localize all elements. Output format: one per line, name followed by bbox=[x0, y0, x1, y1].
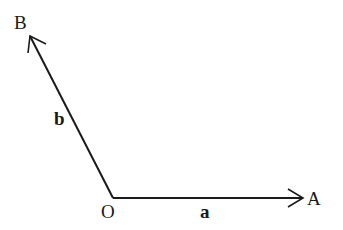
point-label-b: B bbox=[14, 12, 27, 33]
vector-b-line bbox=[30, 36, 113, 198]
vector-diagram: B O A b a bbox=[0, 0, 343, 230]
origin-label: O bbox=[101, 201, 115, 222]
vector-label-b: b bbox=[54, 108, 65, 129]
vector-label-a: a bbox=[200, 201, 210, 222]
point-label-a: A bbox=[307, 188, 321, 209]
